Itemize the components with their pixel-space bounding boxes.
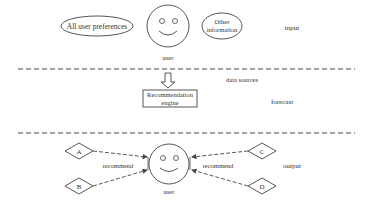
arrow-b-to-user (93, 170, 147, 186)
engine-line2: engine (161, 99, 178, 106)
item-d-label: D (259, 183, 264, 191)
item-a-label: A (76, 148, 81, 156)
arrow-a-to-user (93, 151, 147, 157)
recommend-label-left: recommend (103, 162, 134, 169)
input-section-label: input (285, 24, 299, 32)
other-info-node: Other information (202, 13, 242, 39)
item-b-label: B (77, 183, 82, 191)
arrow-d-to-user (192, 170, 248, 186)
forecast-section-label: forecast (271, 98, 293, 106)
data-sources-label: data sources (226, 76, 258, 83)
down-arrow-icon (161, 73, 175, 88)
other-info-line1: Other (215, 18, 231, 25)
recommendation-diagram: All user preferences user Other informat… (0, 0, 366, 207)
user-face-bottom-icon (149, 144, 189, 184)
output-section-label: output (283, 162, 301, 170)
user-label-top: user (163, 54, 175, 61)
recommend-label-right: recommend (203, 162, 234, 169)
item-d-diamond: D (248, 178, 276, 194)
preferences-node: All user preferences (61, 16, 133, 36)
engine-line1: Recommendation (147, 91, 194, 98)
item-a-diamond: A (65, 143, 93, 159)
preferences-label: All user preferences (67, 22, 127, 31)
user-face-top-icon (147, 5, 189, 47)
item-c-label: C (260, 148, 265, 156)
user-label-bottom: user (164, 188, 176, 195)
item-c-diamond: C (248, 143, 276, 159)
recommendation-engine-box: Recommendation engine (143, 90, 197, 107)
item-b-diamond: B (65, 178, 93, 194)
arrow-c-to-user (192, 151, 248, 157)
other-info-line2: information (207, 26, 238, 33)
